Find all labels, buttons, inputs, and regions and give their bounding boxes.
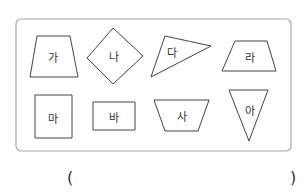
- shape-triangle: 다: [151, 36, 211, 77]
- shape-label: 사: [177, 111, 187, 124]
- shape-label: 나: [109, 51, 119, 64]
- shape-label: 바: [109, 112, 119, 125]
- answer-blank[interactable]: [80, 168, 285, 188]
- shape-label: 다: [167, 47, 177, 60]
- shape-label: 가: [48, 52, 58, 65]
- shapes-group: 가나다라마바사아: [30, 28, 276, 141]
- shape-trapezoid: 가: [30, 36, 78, 77]
- shape-rhombus: 나: [87, 28, 143, 84]
- shape-rectangle: 바: [93, 102, 135, 130]
- shapes-figure: 가나다라마바사아 ( ): [0, 0, 307, 196]
- shape-label: 아: [245, 105, 255, 118]
- figure-frame: [16, 19, 291, 151]
- shape-label: 라: [245, 52, 255, 65]
- figure-canvas: 가나다라마바사아: [0, 0, 307, 196]
- shape-rectangle: 마: [35, 95, 72, 138]
- shape-trapezoid: 라: [222, 41, 276, 71]
- shape-label: 마: [48, 113, 58, 126]
- triangle-outline: [151, 36, 211, 77]
- answer-open-paren: (: [67, 170, 73, 186]
- shape-triangle: 아: [229, 90, 268, 141]
- answer-close-paren: ): [290, 170, 296, 186]
- shape-trapezoid: 사: [154, 100, 209, 131]
